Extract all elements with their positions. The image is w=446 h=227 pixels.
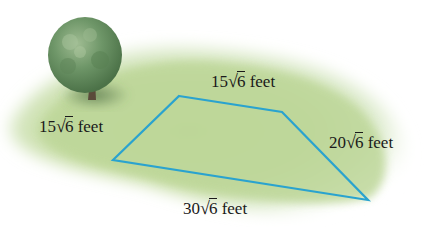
unit: feet [222, 199, 247, 218]
coefficient: 15 [211, 72, 228, 91]
unit: feet [250, 72, 275, 91]
side-label-right: 20√6 feet [329, 133, 393, 151]
side-label-bottom: 30√6 feet [183, 199, 247, 217]
coefficient: 15 [39, 117, 56, 136]
radical: √6 [56, 117, 73, 135]
side-label-top: 15√6 feet [211, 72, 275, 90]
radicand: 6 [355, 132, 364, 152]
coefficient: 30 [183, 199, 200, 218]
radicand: 6 [237, 71, 246, 91]
radicand: 6 [65, 116, 74, 136]
radical: √6 [346, 133, 363, 151]
side-label-left: 15√6 feet [39, 117, 103, 135]
lot-diagram: 15√6 feet 15√6 feet 20√6 feet 30√6 feet [0, 0, 446, 227]
unit: feet [368, 133, 393, 152]
unit: feet [78, 117, 103, 136]
radical: √6 [228, 72, 245, 90]
radical: √6 [200, 199, 217, 217]
coefficient: 20 [329, 133, 346, 152]
radicand: 6 [209, 198, 218, 218]
scene-graphic [0, 0, 446, 227]
